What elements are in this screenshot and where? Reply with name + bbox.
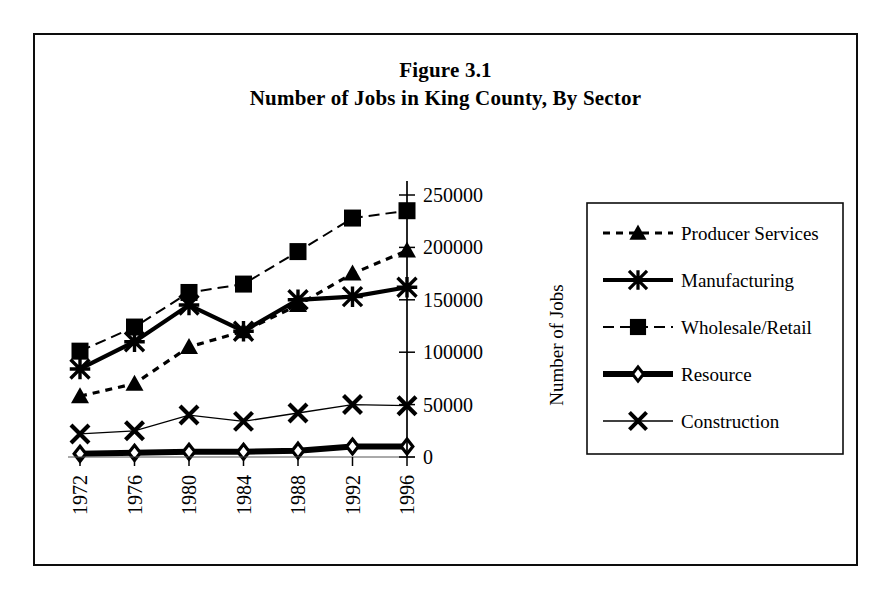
data-point-cross <box>289 404 307 422</box>
x-axis-tick-label: 1972 <box>69 475 91 515</box>
y-axis-tick-label: 100000 <box>423 341 483 363</box>
y-axis-title: Number of Jobs <box>546 284 567 405</box>
x-axis: 1972197619801984198819921996 <box>69 457 418 515</box>
line-chart: 050000100000150000200000250000 197219761… <box>35 35 860 568</box>
data-point-cross <box>235 412 253 430</box>
data-point-cross <box>180 406 198 424</box>
data-point-square <box>630 319 646 335</box>
y-axis-tick-label: 50000 <box>423 394 473 416</box>
legend-item-wholesale-retail[interactable]: Wholesale/Retail <box>603 317 812 338</box>
legend-item-label: Wholesale/Retail <box>681 317 812 338</box>
data-point-triangle <box>126 375 144 391</box>
legend-item-label: Producer Services <box>681 223 819 244</box>
data-point-square <box>290 243 307 260</box>
x-axis-tick-label: 1992 <box>342 475 364 515</box>
x-axis-tick-label: 1984 <box>233 475 255 515</box>
data-point-diamond-open <box>292 443 304 458</box>
legend-item-label: Construction <box>681 411 780 432</box>
plot-group <box>70 202 418 461</box>
y-axis-tick-label: 150000 <box>423 289 483 311</box>
data-point-square <box>72 343 89 360</box>
data-point-asterisk <box>342 286 363 307</box>
data-point-triangle <box>344 265 362 281</box>
data-point-asterisk <box>70 359 91 380</box>
data-point-square <box>344 210 361 227</box>
data-point-diamond-open <box>347 439 359 454</box>
x-axis-tick-label: 1988 <box>287 475 309 515</box>
chart-area: 050000100000150000200000250000 197219761… <box>35 35 860 568</box>
x-axis-tick-label: 1996 <box>396 475 418 515</box>
data-point-asterisk <box>233 321 254 342</box>
legend-item-label: Manufacturing <box>681 270 794 291</box>
y-axis-tick-label: 200000 <box>423 236 483 258</box>
data-point-square <box>126 319 143 336</box>
legend-item-label: Resource <box>681 364 752 385</box>
data-point-square <box>181 284 198 301</box>
x-axis-tick-label: 1976 <box>124 475 146 515</box>
data-point-asterisk <box>628 270 647 289</box>
y-axis-tick-label: 0 <box>423 446 433 468</box>
y-axis-tick-label: 250000 <box>423 184 483 206</box>
data-point-asterisk <box>288 290 309 311</box>
chart-legend: Producer ServicesManufacturingWholesale/… <box>587 203 843 454</box>
data-point-square <box>235 276 252 293</box>
figure-frame: Figure 3.1 Number of Jobs in King County… <box>33 33 858 566</box>
x-axis-tick-label: 1980 <box>178 475 200 515</box>
legend-item-construction[interactable]: Construction <box>603 411 780 432</box>
data-point-triangle <box>180 338 198 354</box>
legend-item-manufacturing[interactable]: Manufacturing <box>603 270 794 291</box>
